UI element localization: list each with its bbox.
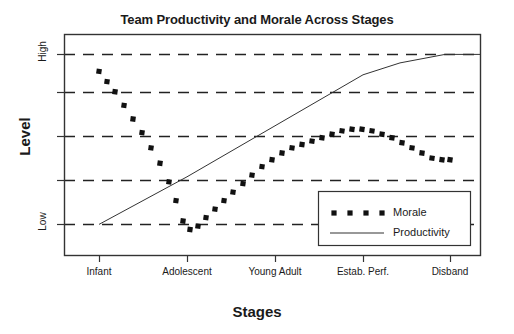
chart-page: Team Productivity and Morale Across Stag… [0,0,514,334]
morale-marker-20 [269,157,275,163]
morale-marker-30 [369,128,375,134]
legend-morale-dot-0 [331,210,336,215]
x-tick-label-1: Adolescent [162,266,211,277]
morale-marker-29 [359,126,365,132]
morale-marker-26 [329,131,335,137]
plot-area [0,0,514,334]
morale-marker-7 [157,160,163,166]
morale-marker-16 [230,189,236,195]
morale-marker-21 [279,150,285,156]
morale-marker-19 [259,164,265,170]
x-tick-label-2: Young Adult [248,266,301,277]
morale-marker-13 [203,215,209,221]
morale-marker-27 [339,128,345,134]
morale-marker-33 [399,140,405,146]
legend-morale-dot-3 [379,210,384,215]
morale-marker-17 [240,181,246,187]
morale-marker-22 [289,145,295,151]
legend-label-morale: Morale [393,206,427,218]
legend-morale-dot-2 [363,210,368,215]
morale-marker-32 [389,135,395,141]
morale-marker-11 [187,227,193,233]
morale-marker-2 [112,89,118,95]
morale-marker-25 [319,135,325,141]
morale-marker-12 [195,223,201,229]
morale-marker-8 [166,179,172,185]
morale-marker-10 [180,218,186,224]
morale-marker-35 [419,150,425,156]
morale-marker-15 [221,198,227,204]
morale-marker-0 [96,68,102,74]
morale-marker-23 [299,142,305,148]
x-tick-label-3: Estab. Perf. [337,266,389,277]
morale-marker-31 [379,131,385,137]
morale-marker-28 [349,126,355,132]
morale-marker-34 [409,145,415,151]
y-axis-ticks [57,55,64,225]
morale-marker-14 [212,206,218,212]
legend-morale-dot-1 [347,210,352,215]
morale-marker-3 [121,102,127,108]
morale-marker-18 [249,172,255,178]
morale-marker-1 [104,79,110,85]
morale-marker-37 [439,157,445,163]
morale-marker-5 [139,130,145,136]
x-tick-label-0: Infant [86,266,111,277]
morale-marker-9 [173,198,179,204]
morale-marker-4 [130,116,136,122]
morale-marker-24 [309,138,315,144]
morale-marker-38 [447,157,453,163]
legend-label-productivity: Productivity [393,226,450,238]
morale-marker-6 [148,145,154,151]
x-tick-label-4: Disband [432,266,469,277]
morale-marker-36 [429,155,435,161]
